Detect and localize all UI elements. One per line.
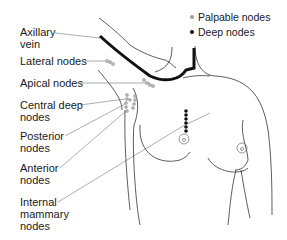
- label-lateral-nodes: Lateral nodes: [20, 55, 87, 67]
- label-apical-nodes: Apical nodes: [20, 77, 83, 89]
- lymph-node-diagram: Palpable nodes Deep nodes Axillary vein …: [0, 0, 287, 240]
- palpable-dot-icon: [190, 15, 194, 19]
- label-anterior-nodes: Anterior nodes: [20, 162, 59, 186]
- legend-label: Palpable nodes: [198, 10, 270, 24]
- deep-dot-icon: [190, 30, 194, 34]
- legend-label: Deep nodes: [198, 25, 255, 39]
- label-axillary-vein: Axillary vein: [20, 26, 55, 50]
- label-posterior-nodes: Posterior nodes: [20, 130, 64, 154]
- legend-deep: Deep nodes: [190, 25, 255, 39]
- legend-palpable: Palpable nodes: [190, 10, 270, 24]
- label-central-deep-nodes: Central deep nodes: [20, 99, 83, 123]
- label-internal-mammary-nodes: Internal mammary nodes: [20, 196, 69, 232]
